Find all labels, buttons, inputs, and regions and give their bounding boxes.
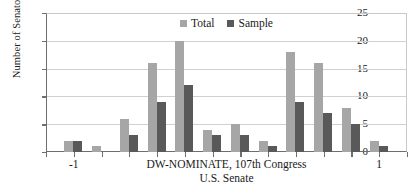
bar-total: [64, 141, 73, 152]
bar-group: [148, 13, 166, 152]
bar-group: [203, 13, 221, 152]
bar-total: [259, 141, 268, 152]
plot-area: [46, 13, 407, 152]
x-axis-tick-mark: [74, 152, 75, 157]
bar-group: [231, 13, 249, 152]
bar-sample: [73, 141, 82, 152]
bar-group: [120, 13, 138, 152]
bar-sample: [157, 102, 166, 152]
bar-sample: [129, 135, 138, 152]
x-axis-tick-mark: [379, 152, 380, 157]
bar-total: [175, 41, 184, 152]
x-axis-tick-mark: [268, 152, 269, 157]
bar-total: [286, 52, 295, 152]
x-axis-tick-mark: [129, 152, 130, 157]
x-axis-title-line2: U.S. Senate: [46, 172, 407, 186]
bar-chart: Number of Senators 0510152025 -1 1 DW-NO…: [0, 0, 418, 192]
x-axis-tick-mark: [324, 152, 325, 157]
x-axis-tick-mark: [185, 152, 186, 157]
bar-group: [342, 13, 360, 152]
bar-total: [203, 130, 212, 152]
bar-sample: [240, 135, 249, 152]
bars-layer: [46, 13, 407, 152]
y-axis-title: Number of Senators: [11, 0, 25, 105]
bar-sample: [212, 135, 221, 152]
bar-total: [370, 141, 379, 152]
bar-total: [342, 108, 351, 152]
bar-group: [314, 13, 332, 152]
x-axis-tick-mark: [102, 152, 103, 157]
bar-group: [175, 13, 193, 152]
bar-total: [92, 146, 101, 152]
bar-sample: [184, 85, 193, 152]
bar-group: [64, 13, 82, 152]
x-axis-tick-mark: [407, 152, 408, 157]
x-axis-title: DW-NOMINATE, 107th Congress U.S. Senate: [46, 158, 407, 185]
bar-group: [92, 13, 110, 152]
x-axis-tick-mark: [46, 152, 47, 157]
x-axis-tick-mark: [296, 152, 297, 157]
bar-sample: [323, 113, 332, 152]
x-axis-tick-mark: [351, 152, 352, 157]
bar-total: [120, 119, 129, 152]
x-axis-tick-mark: [157, 152, 158, 157]
bar-group: [259, 13, 277, 152]
bar-sample: [295, 102, 304, 152]
bar-group: [370, 13, 388, 152]
bar-group: [286, 13, 304, 152]
bar-total: [148, 63, 157, 152]
bar-total: [231, 124, 240, 152]
bar-total: [314, 63, 323, 152]
x-axis-tick-mark: [213, 152, 214, 157]
bar-sample: [351, 124, 360, 152]
x-axis-title-line1: DW-NOMINATE, 107th Congress: [146, 158, 306, 170]
x-axis-tick-mark: [240, 152, 241, 157]
